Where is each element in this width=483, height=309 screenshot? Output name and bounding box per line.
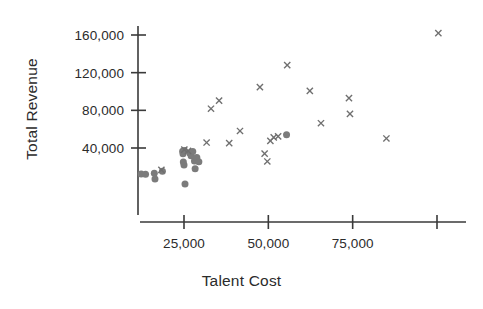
data-point-circle [283,131,290,138]
x-tick-label: 50,000 [247,236,289,251]
data-point-cross [216,98,222,104]
y-tick-label: 40,000 [28,141,124,156]
data-point-cross [435,30,441,36]
data-point-cross [307,88,313,94]
data-point-cross [237,128,243,134]
data-point-circle [181,161,188,168]
data-point-cross [264,158,270,164]
data-point-cross [275,133,281,139]
data-point-cross [208,106,214,112]
data-point-cross [383,135,389,141]
scatter-chart: 40,00080,000120,000160,000 25,00050,0007… [0,0,483,309]
data-points [138,30,442,187]
data-point-cross [226,140,232,146]
y-axis-title: Total Revenue [23,14,41,204]
data-point-cross [347,111,353,117]
tick-marks [131,35,437,229]
x-tick-label: 25,000 [163,236,205,251]
data-point-cross [204,139,210,145]
data-point-cross [262,151,268,157]
y-tick-label: 160,000 [28,28,124,43]
data-point-circle [182,180,189,187]
data-point-cross [284,62,290,68]
data-point-cross [346,95,352,101]
data-point-cross [257,84,263,90]
y-tick-label: 120,000 [28,65,124,80]
data-point-circle [192,165,199,172]
data-point-circle [151,175,158,182]
data-point-circle [142,171,149,178]
data-point-cross [318,120,324,126]
data-point-cross [271,134,277,140]
axis-lines [138,26,466,222]
x-tick-label: 75,000 [332,236,374,251]
data-point-circle [195,158,202,165]
x-axis-title: Talent Cost [0,272,483,290]
y-tick-label: 80,000 [28,103,124,118]
